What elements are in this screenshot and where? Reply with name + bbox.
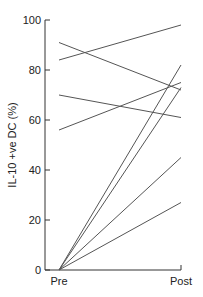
line-chart: 020406080100 Pre Post IL-10 +ve DC (%): [0, 0, 203, 297]
y-tick-label: 40: [29, 164, 41, 176]
series-line: [59, 43, 181, 91]
y-axis-title: IL-10 +ve DC (%): [6, 102, 18, 187]
y-tick-label: 0: [35, 264, 41, 276]
y-tick-label: 60: [29, 114, 41, 126]
series-line: [59, 88, 181, 271]
y-tick-label: 100: [23, 14, 41, 26]
series-lines: [59, 25, 181, 270]
axes: 020406080100: [23, 14, 181, 276]
series-line: [59, 83, 181, 131]
x-label-pre: Pre: [50, 275, 67, 287]
y-tick-label: 80: [29, 64, 41, 76]
series-line: [59, 25, 181, 60]
x-label-post: Post: [170, 275, 192, 287]
y-tick-label: 20: [29, 214, 41, 226]
series-line: [59, 158, 181, 271]
series-line: [59, 203, 181, 271]
series-line: [59, 65, 181, 270]
